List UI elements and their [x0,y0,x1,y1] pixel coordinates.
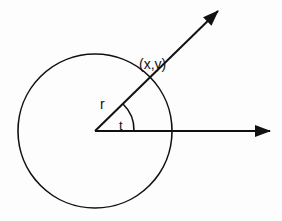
diagram-canvas: (x,y) r t [0,0,282,221]
point-label: (x,y) [139,56,166,72]
radius-label: r [100,96,105,112]
angle-label: t [119,118,123,133]
polar-diagram: (x,y) r t [0,0,282,221]
angle-arc [123,104,134,131]
